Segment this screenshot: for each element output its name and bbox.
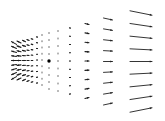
arrow (57, 90, 58, 92)
arrow (57, 68, 58, 70)
arrowhead (150, 72, 152, 74)
arrow (41, 53, 42, 55)
arrow (57, 60, 58, 62)
arrow (41, 84, 42, 86)
arrow (48, 67, 49, 69)
quiver-plot (0, 0, 165, 121)
arrow (48, 46, 49, 48)
arrow (48, 81, 49, 83)
arrowhead (17, 46, 19, 48)
arrowhead (150, 49, 152, 51)
arrow (41, 34, 42, 36)
arrowhead (87, 60, 89, 62)
arrow (130, 85, 152, 87)
arrow (130, 73, 152, 74)
arrow (130, 11, 152, 15)
arrow (48, 74, 49, 76)
arrowhead (110, 71, 112, 73)
arrow (130, 49, 152, 50)
arrow (130, 96, 152, 99)
vector-field-arrows (12, 11, 153, 112)
arrow (57, 53, 58, 55)
arrow (48, 39, 49, 41)
arrow (41, 72, 42, 74)
arrow (48, 32, 49, 34)
arrow (57, 30, 58, 32)
arrowhead (110, 61, 112, 63)
arrow (130, 36, 152, 38)
arrow (57, 38, 58, 40)
arrow (41, 78, 42, 80)
arrow (41, 47, 42, 49)
arrow (41, 40, 42, 42)
arrow (57, 45, 58, 47)
arrow (41, 59, 42, 61)
arrow (130, 108, 152, 112)
arrow (57, 83, 58, 85)
arrowhead (17, 60, 19, 62)
arrow (130, 23, 152, 26)
arrow (48, 88, 49, 90)
arrowhead (110, 50, 112, 52)
arrowhead (17, 74, 19, 76)
center-marker (47, 59, 50, 62)
arrow (41, 65, 42, 67)
arrow (57, 75, 58, 77)
arrowhead (150, 61, 152, 63)
arrow (48, 53, 49, 55)
arrowhead (12, 60, 14, 62)
